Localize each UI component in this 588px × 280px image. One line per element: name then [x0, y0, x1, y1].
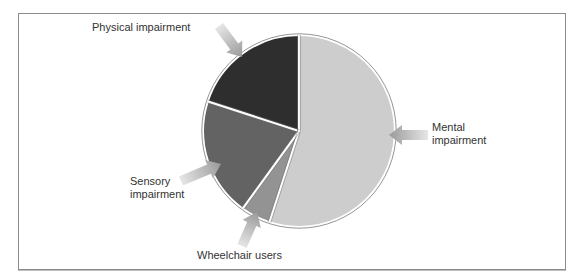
label-wheelchair-users: Wheelchair users	[197, 249, 282, 262]
label-sensory-impairment: Sensory impairment	[130, 175, 184, 201]
label-mental-impairment: Mental impairment	[432, 121, 486, 147]
pie-chart	[0, 0, 588, 280]
label-sensory-line2: impairment	[130, 188, 184, 201]
label-mental-line2: impairment	[432, 134, 486, 147]
label-sensory-line1: Sensory	[130, 175, 184, 188]
label-physical-impairment: Physical impairment	[92, 21, 190, 34]
label-mental-line1: Mental	[432, 121, 486, 134]
pie-slices	[202, 34, 396, 228]
